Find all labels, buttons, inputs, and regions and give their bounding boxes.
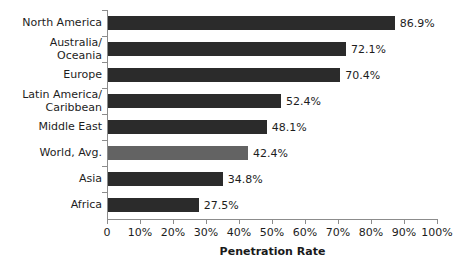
category-label: Asia [0, 173, 102, 186]
category-tick [102, 192, 107, 193]
x-axis-tick [140, 219, 141, 224]
category-tick [102, 10, 107, 11]
bar [108, 94, 281, 108]
bar-value-label: 70.4% [345, 69, 380, 82]
category-label: North America [0, 17, 102, 30]
x-axis-tick-label: 60% [293, 226, 317, 239]
category-tick [102, 166, 107, 167]
bar [108, 172, 223, 186]
category-label: Europe [0, 69, 102, 82]
x-axis-tick-label: 70% [326, 226, 350, 239]
category-label: World, Avg. [0, 147, 102, 160]
x-axis-title: Penetration Rate [107, 245, 438, 258]
category-label: Latin America/ Caribbean [0, 89, 102, 114]
x-axis-tick [107, 219, 108, 224]
category-label: Africa [0, 199, 102, 212]
bar-value-label: 42.4% [253, 147, 288, 160]
bar [108, 42, 346, 56]
bar [108, 120, 267, 134]
category-tick [102, 36, 107, 37]
bar-chart: North America86.9%Australia/ Oceania72.1… [0, 0, 466, 265]
category-tick [102, 62, 107, 63]
x-axis-tick-label: 30% [194, 226, 218, 239]
x-axis-tick-label: 10% [128, 226, 152, 239]
bar-row: Middle East48.1% [0, 114, 466, 140]
x-axis-tick-label: 50% [260, 226, 284, 239]
category-tick [102, 88, 107, 89]
x-axis-tick-label: 0 [104, 226, 111, 239]
x-axis-tick [371, 219, 372, 224]
category-tick [102, 114, 107, 115]
bar-row: World, Avg.42.4% [0, 140, 466, 166]
bar-row: Australia/ Oceania72.1% [0, 36, 466, 62]
x-axis-tick [338, 219, 339, 224]
x-axis-tick [173, 219, 174, 224]
bar-value-label: 86.9% [400, 17, 435, 30]
category-tick [102, 140, 107, 141]
bar-row: Europe70.4% [0, 62, 466, 88]
x-axis-tick-label: 40% [227, 226, 251, 239]
bar [108, 68, 340, 82]
bar-value-label: 72.1% [351, 43, 386, 56]
bar [108, 16, 395, 30]
x-axis-tick-label: 100% [421, 226, 452, 239]
x-axis-tick [437, 219, 438, 224]
bar-value-label: 34.8% [228, 173, 263, 186]
x-axis-tick [206, 219, 207, 224]
bar-row: Asia34.8% [0, 166, 466, 192]
bar-row: Latin America/ Caribbean52.4% [0, 88, 466, 114]
bar [108, 146, 248, 160]
category-label: Middle East [0, 121, 102, 134]
bar [108, 198, 199, 212]
bar-row: North America86.9% [0, 10, 466, 36]
x-axis-tick [404, 219, 405, 224]
x-axis-tick [305, 219, 306, 224]
bar-value-label: 52.4% [286, 95, 321, 108]
x-axis-tick-label: 90% [392, 226, 416, 239]
x-axis-tick-label: 80% [359, 226, 383, 239]
bar-value-label: 48.1% [272, 121, 307, 134]
x-axis-tick [272, 219, 273, 224]
chart-title [0, 0, 466, 1]
x-axis-tick-label: 20% [161, 226, 185, 239]
x-axis-tick [239, 219, 240, 224]
category-label: Australia/ Oceania [0, 37, 102, 62]
bar-value-label: 27.5% [204, 199, 239, 212]
bar-row: Africa27.5% [0, 192, 466, 218]
